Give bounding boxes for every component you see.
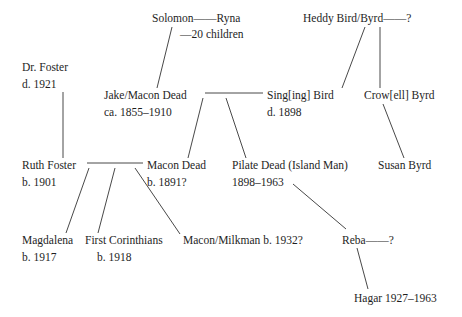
heddy-bird-name: Heddy Bird/Byrd——? — [303, 10, 411, 27]
magdalena-dates: b. 1917 — [22, 249, 73, 266]
macon-dead-name: Macon Dead — [147, 157, 206, 174]
node-jake-macon-dead: Jake/Macon Dead ca. 1855–1910 — [104, 87, 187, 121]
node-heddy-bird: Heddy Bird/Byrd——? — [303, 10, 411, 27]
crowell-name: Crow[ell] Byrd — [364, 87, 435, 104]
solomon-ryna-children: —20 children — [152, 26, 244, 43]
dr-foster-dates: d. 1921 — [22, 76, 68, 93]
node-pilate-dead: Pilate Dead (Island Man) 1898–1963 — [232, 157, 348, 191]
ruth-name: Ruth Foster — [22, 157, 76, 174]
line-to-macon-dead — [188, 98, 203, 158]
pilate-dates: 1898–1963 — [232, 174, 348, 191]
first-corinthians-dates: b. 1918 — [85, 249, 163, 266]
node-first-corinthians: First Corinthians b. 1918 — [85, 232, 163, 266]
singing-bird-name: Sing[ing] Bird — [267, 87, 334, 104]
milkman-name: Macon/Milkman b. 1932? — [183, 232, 303, 249]
line-heddy-to-singing-bird — [342, 27, 365, 88]
node-milkman: Macon/Milkman b. 1932? — [183, 232, 303, 249]
node-macon-dead: Macon Dead b. 1891? — [147, 157, 206, 191]
line-to-pilate — [226, 98, 246, 158]
pilate-name: Pilate Dead (Island Man) — [232, 157, 348, 174]
node-reba: Reba——? — [342, 232, 394, 249]
line-crowell-to-susan — [383, 104, 404, 158]
magdalena-name: Magdalena — [22, 232, 73, 249]
line-reba-to-hagar — [357, 248, 368, 289]
node-ruth-foster: Ruth Foster b. 1901 — [22, 157, 76, 191]
node-susan-byrd: Susan Byrd — [378, 157, 431, 174]
reba-name: Reba——? — [342, 232, 394, 249]
node-hagar: Hagar 1927–1963 — [354, 290, 437, 307]
solomon-ryna-name: Solomon——Ryna — [152, 10, 244, 27]
ruth-dates: b. 1901 — [22, 174, 76, 191]
jake-dates: ca. 1855–1910 — [104, 104, 187, 121]
node-singing-bird: Sing[ing] Bird d. 1898 — [267, 87, 334, 121]
node-crowell-byrd: Crow[ell] Byrd — [364, 87, 435, 104]
macon-dead-dates: b. 1891? — [147, 174, 206, 191]
node-solomon-ryna: Solomon——Ryna —20 children — [152, 10, 244, 43]
susan-name: Susan Byrd — [378, 157, 431, 174]
singing-bird-dates: d. 1898 — [267, 104, 334, 121]
line-to-first-corinthians — [98, 168, 115, 233]
jake-name: Jake/Macon Dead — [104, 87, 187, 104]
family-tree-diagram: Solomon——Ryna —20 children Heddy Bird/By… — [0, 0, 462, 317]
first-corinthians-name: First Corinthians — [85, 232, 163, 249]
hagar-name: Hagar 1927–1963 — [354, 290, 437, 307]
node-magdalena: Magdalena b. 1917 — [22, 232, 73, 266]
node-dr-foster: Dr. Foster d. 1921 — [22, 59, 68, 93]
dr-foster-name: Dr. Foster — [22, 59, 68, 76]
